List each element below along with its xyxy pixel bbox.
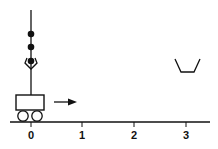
ball-icon [28,31,35,38]
cart-body [16,95,44,110]
cart-crane-diagram: 0 1 2 3 [0,0,218,149]
motion-arrow-icon [54,99,77,106]
bucket-icon [175,59,200,72]
ball-icon [28,44,35,51]
tick-label-1: 1 [79,129,85,141]
tick-label-3: 3 [183,129,189,141]
wheel-icon [18,111,28,121]
tick-label-0: 0 [28,129,34,141]
balls [28,31,35,65]
tick-label-2: 2 [131,129,137,141]
wheel-icon [32,111,42,121]
ball-icon [28,58,35,65]
